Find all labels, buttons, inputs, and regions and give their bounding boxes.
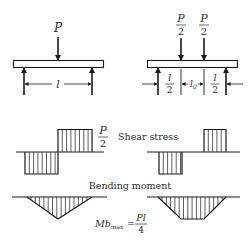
negative-shear-block — [25, 152, 58, 174]
max-moment-formula: Mbmax = Pl 4 — [94, 212, 147, 235]
formula-equals: = — [127, 218, 135, 229]
positive-shear-block — [204, 130, 226, 153]
formula-lhs: Mbmax — [94, 218, 124, 230]
fraction-numerator: P — [98, 124, 107, 137]
l0-subscript: 0 — [193, 83, 197, 90]
right-load-label-2: P 2 — [199, 12, 209, 37]
fraction-denominator: 2 — [212, 85, 218, 95]
bending-moment-title: Bending moment — [89, 180, 172, 191]
right-beam — [148, 61, 238, 68]
formula-numerator: Pl — [135, 212, 145, 223]
left-beam — [14, 61, 104, 68]
left-span-label: l — [56, 78, 60, 91]
right-span-label-3: l 2 — [211, 72, 220, 95]
left-shear-diagram — [16, 130, 104, 175]
right-span-label-1: l 2 — [165, 72, 174, 95]
fraction-denominator: 2 — [201, 26, 207, 37]
fraction-numerator: l — [213, 72, 216, 83]
formula-denominator: 4 — [138, 225, 144, 235]
fraction-denominator: 2 — [178, 26, 184, 37]
fraction-numerator: P — [176, 12, 185, 25]
shear-stress-title: Shear stress — [118, 131, 178, 142]
right-load-label-1: P 2 — [176, 12, 186, 37]
beam-diagram: P l P 2 P 2 — [0, 0, 252, 240]
left-load-label: P — [53, 21, 63, 35]
right-beam-figure: P 2 P 2 l 2 l0 l — [142, 12, 243, 95]
left-bending-diagram — [12, 197, 107, 219]
right-span-label-2: l0 — [190, 79, 197, 90]
negative-shear-block — [159, 152, 182, 174]
right-bending-diagram — [147, 197, 240, 219]
fraction-numerator: l — [168, 72, 171, 83]
formula-subscript: max — [111, 223, 124, 230]
formula-mb: Mb — [94, 218, 111, 229]
left-beam-figure: P l — [14, 21, 104, 95]
fraction-denominator: 2 — [167, 85, 173, 95]
fraction-numerator: P — [199, 12, 208, 25]
moment-hatching — [31, 197, 91, 218]
shear-magnitude-label: P 2 — [98, 124, 108, 149]
fraction-denominator: 2 — [100, 138, 106, 149]
moment-hatching — [162, 197, 222, 219]
